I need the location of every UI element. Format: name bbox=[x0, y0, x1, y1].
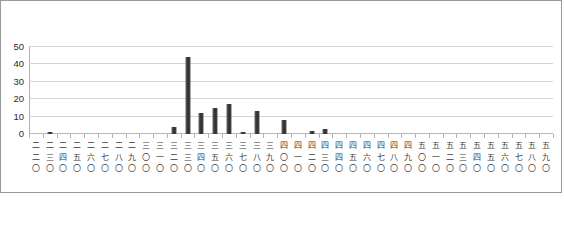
x-axis-label-glyph: 三 bbox=[184, 152, 192, 164]
x-axis-label-glyph: 五 bbox=[515, 140, 523, 152]
x-axis-label-glyph: 五 bbox=[542, 140, 550, 152]
bar-slot bbox=[539, 47, 553, 134]
x-axis-tick-label: 三七〇 bbox=[239, 140, 247, 175]
x-axis-label-glyph: 二 bbox=[115, 140, 123, 152]
x-axis-tick-label: 三六〇 bbox=[225, 140, 233, 175]
x-axis-tick-label: 二九〇 bbox=[128, 140, 136, 175]
x-axis-label-glyph: 三 bbox=[253, 140, 261, 152]
x-axis-label-glyph: 三 bbox=[142, 140, 150, 152]
x-axis-label-glyph: 〇 bbox=[280, 163, 288, 175]
x-axis-tick-label: 五八〇 bbox=[528, 140, 536, 175]
x-axis-label-glyph: 〇 bbox=[32, 163, 40, 175]
x-axis-tick-label: 四六〇 bbox=[363, 140, 371, 175]
x-axis-label-glyph: 八 bbox=[528, 152, 536, 164]
x-axis-label-glyph: 二 bbox=[170, 152, 178, 164]
x-axis-tick bbox=[181, 134, 182, 138]
x-axis-label-glyph: 六 bbox=[363, 152, 371, 164]
x-axis-tick bbox=[139, 134, 140, 138]
x-axis-label-glyph: 五 bbox=[446, 140, 454, 152]
bar bbox=[282, 120, 287, 134]
bar-slot bbox=[153, 47, 167, 134]
y-axis-tick-label: 20 bbox=[13, 94, 24, 104]
x-axis-tick bbox=[319, 134, 320, 138]
bar-slot bbox=[263, 47, 277, 134]
y-axis-tick-label: 50 bbox=[13, 42, 24, 52]
x-axis-tick bbox=[263, 134, 264, 138]
x-axis-label-glyph: 〇 bbox=[515, 163, 523, 175]
bar-slot bbox=[456, 47, 470, 134]
bar-slot bbox=[236, 47, 250, 134]
x-axis-tick-label: 四一〇 bbox=[294, 140, 302, 175]
x-axis-label-glyph: 三 bbox=[266, 140, 274, 152]
y-axis-tick-label: 40 bbox=[13, 59, 24, 69]
bar bbox=[226, 104, 231, 134]
x-axis-tick bbox=[525, 134, 526, 138]
x-axis-label-glyph: 〇 bbox=[59, 163, 67, 175]
x-axis-tick bbox=[332, 134, 333, 138]
x-axis-tick bbox=[222, 134, 223, 138]
x-axis-tick-label: 五二〇 bbox=[446, 140, 454, 175]
x-axis-label-glyph: 〇 bbox=[377, 163, 385, 175]
x-axis-tick bbox=[553, 134, 554, 138]
x-axis-label-glyph: 二 bbox=[128, 140, 136, 152]
x-axis-label-glyph: 〇 bbox=[156, 163, 164, 175]
x-axis-tick-label: 四二〇 bbox=[308, 140, 316, 175]
bar-slot bbox=[319, 47, 333, 134]
x-axis-tick bbox=[512, 134, 513, 138]
bar-slot bbox=[277, 47, 291, 134]
bar-slot bbox=[126, 47, 140, 134]
bar-slot bbox=[70, 47, 84, 134]
x-axis-tick bbox=[291, 134, 292, 138]
bar-slot bbox=[512, 47, 526, 134]
bar-slot bbox=[250, 47, 264, 134]
x-axis-tick-label: 四四〇 bbox=[335, 140, 343, 175]
x-axis-tick-label: 五三〇 bbox=[459, 140, 467, 175]
x-axis-tick-label: 三八〇 bbox=[253, 140, 261, 175]
x-axis-tick bbox=[346, 134, 347, 138]
x-axis-label-glyph: 〇 bbox=[170, 163, 178, 175]
x-axis-label-glyph: 〇 bbox=[73, 163, 81, 175]
y-axis-tick-label: 10 bbox=[13, 112, 24, 122]
x-axis-label-glyph: 六 bbox=[87, 152, 95, 164]
x-axis-label-glyph: 四 bbox=[390, 140, 398, 152]
x-axis-tick bbox=[43, 134, 44, 138]
x-axis-tick-label: 二二〇 bbox=[32, 140, 40, 175]
x-axis-tick bbox=[498, 134, 499, 138]
x-axis-label-glyph: 四 bbox=[294, 140, 302, 152]
x-axis-tick bbox=[194, 134, 195, 138]
x-axis-label-glyph: 三 bbox=[46, 152, 54, 164]
x-axis-tick-label: 五七〇 bbox=[515, 140, 523, 175]
x-axis-label-glyph: 六 bbox=[225, 152, 233, 164]
bar-slot bbox=[470, 47, 484, 134]
x-axis-label-glyph: 四 bbox=[197, 152, 205, 164]
x-axis-label-glyph: 四 bbox=[349, 140, 357, 152]
x-axis-tick bbox=[374, 134, 375, 138]
y-axis-tick-label: 30 bbox=[13, 77, 24, 87]
x-axis-tick-label: 二四〇 bbox=[59, 140, 67, 175]
x-axis-tick bbox=[415, 134, 416, 138]
bar bbox=[199, 113, 204, 134]
x-axis-tick bbox=[84, 134, 85, 138]
x-axis-label-glyph: 四 bbox=[308, 140, 316, 152]
x-axis-label-glyph: 五 bbox=[487, 140, 495, 152]
x-axis-label-glyph: 五 bbox=[211, 152, 219, 164]
x-axis-label-glyph: 四 bbox=[404, 140, 412, 152]
x-axis-tick bbox=[112, 134, 113, 138]
x-axis-label-glyph: 九 bbox=[266, 152, 274, 164]
x-axis-tick-label: 二六〇 bbox=[87, 140, 95, 175]
x-axis-label-glyph: 五 bbox=[459, 140, 467, 152]
bar-slot bbox=[388, 47, 402, 134]
x-axis-label-glyph: 三 bbox=[459, 152, 467, 164]
x-axis-labels: 二二〇二三〇二四〇二五〇二六〇二七〇二八〇二九〇三〇〇三一〇三二〇三三〇三四〇三… bbox=[29, 140, 553, 190]
x-axis-tick bbox=[305, 134, 306, 138]
y-axis-labels: 01020304050 bbox=[1, 39, 27, 143]
x-axis-label-glyph: 七 bbox=[101, 152, 109, 164]
x-axis-tick bbox=[429, 134, 430, 138]
bar-slot bbox=[208, 47, 222, 134]
x-axis-label-glyph: 一 bbox=[294, 152, 302, 164]
x-axis-tick-label: 三一〇 bbox=[156, 140, 164, 175]
bar-slot bbox=[401, 47, 415, 134]
bar-slot bbox=[167, 47, 181, 134]
x-axis-tick-label: 五〇〇 bbox=[418, 140, 426, 175]
x-axis-tick-label: 五九〇 bbox=[542, 140, 550, 175]
